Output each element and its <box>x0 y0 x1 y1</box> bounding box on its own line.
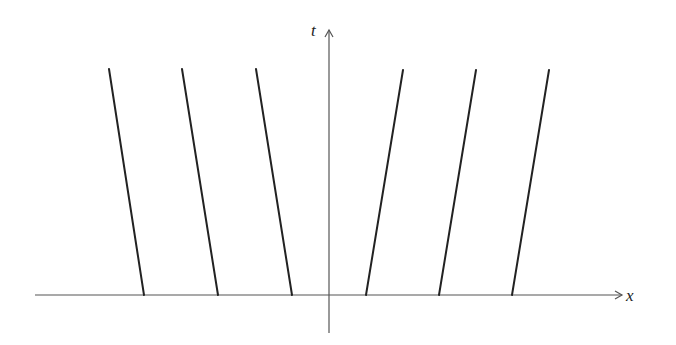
characteristic-line-left-1 <box>109 69 144 295</box>
characteristic-line-right-5 <box>439 70 476 295</box>
x-axis-label: x <box>626 287 634 304</box>
characteristic-line-left-3 <box>256 69 292 295</box>
characteristic-line-right-4 <box>366 70 403 295</box>
spacetime-diagram <box>0 0 676 345</box>
t-axis-label: t <box>311 22 316 39</box>
characteristic-line-left-2 <box>182 69 218 295</box>
characteristic-line-right-6 <box>512 70 549 295</box>
